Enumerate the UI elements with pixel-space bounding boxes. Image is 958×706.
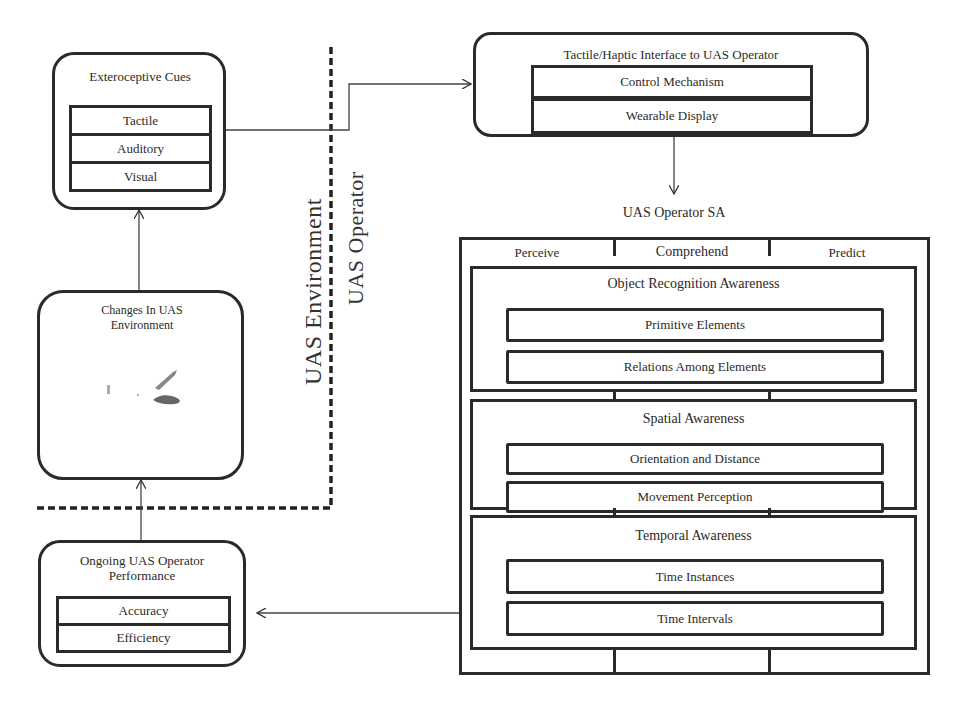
tactile-haptic-interface-box: Tactile/Haptic Interface to UAS Operator… [473, 32, 869, 137]
group-connector [613, 648, 616, 673]
temporal-awareness-group: Temporal Awareness Time Instances Time I… [470, 515, 917, 650]
uas-environment-label: UAS Environment [300, 198, 327, 385]
stage-divider [768, 240, 771, 256]
uas-operator-sa-box: Perceive Comprehend Predict Object Recog… [459, 237, 930, 675]
changes-environment-title: Changes In UAS Environment [80, 303, 204, 333]
uas-operator-label: UAS Operator [343, 171, 369, 305]
cue-visual: Visual [69, 161, 212, 192]
control-mechanism: Control Mechanism [531, 65, 813, 99]
wearable-display: Wearable Display [531, 98, 813, 134]
cue-auditory: Auditory [69, 133, 212, 164]
primitive-elements: Primitive Elements [506, 308, 884, 342]
metric-accuracy: Accuracy [56, 596, 231, 626]
exteroceptive-cues-title: Exteroceptive Cues [85, 69, 195, 84]
exteroceptive-cues-box: Exteroceptive Cues Tactile Auditory Visu… [52, 52, 226, 210]
temporal-awareness-title: Temporal Awareness [473, 528, 914, 543]
time-intervals: Time Intervals [506, 601, 884, 636]
object-recognition-group: Object Recognition Awareness Primitive E… [470, 266, 917, 392]
tactile-haptic-interface-title: Tactile/Haptic Interface to UAS Operator [476, 47, 866, 62]
uas-operator-sa-label: UAS Operator SA [574, 205, 774, 220]
relations-among-elements: Relations Among Elements [506, 350, 884, 384]
stage-perceive: Perceive [462, 245, 612, 260]
aircraft-illustration-icon [95, 358, 215, 418]
spatial-awareness-group: Spatial Awareness Orientation and Distan… [470, 399, 917, 510]
group-connector [768, 648, 771, 673]
movement-perception: Movement Perception [506, 481, 884, 513]
arrow-exteroceptive-to-interface [226, 84, 471, 130]
time-instances: Time Instances [506, 559, 884, 594]
ongoing-performance-title: Ongoing UAS Operator Performance [51, 553, 233, 583]
changes-environment-box: Changes In UAS Environment [37, 290, 244, 480]
metric-efficiency: Efficiency [56, 623, 231, 653]
ongoing-performance-box: Ongoing UAS Operator Performance Accurac… [38, 540, 246, 667]
stage-predict: Predict [772, 245, 922, 260]
stage-comprehend: Comprehend [616, 244, 768, 259]
cue-tactile: Tactile [69, 105, 212, 136]
orientation-and-distance: Orientation and Distance [506, 443, 884, 475]
object-recognition-title: Object Recognition Awareness [473, 276, 914, 291]
spatial-awareness-title: Spatial Awareness [473, 411, 914, 426]
